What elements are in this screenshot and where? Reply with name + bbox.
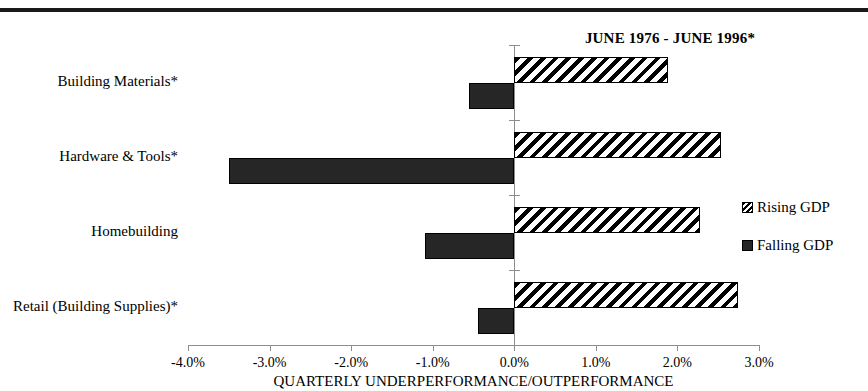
bar-falling-gdp [478,308,515,334]
x-axis-tick-label: 3.0% [724,355,794,371]
bar-group [188,270,759,345]
legend-item: Rising GDP [742,188,866,226]
bar-rising-gdp [514,132,720,158]
bar-rising-gdp [514,207,700,233]
bar-chart: JUNE 1976 - JUNE 1996* Building Material… [0,0,868,391]
x-axis-tick-label: -2.0% [316,355,386,371]
x-axis-tick-label: 2.0% [642,355,712,371]
x-axis-tick [759,345,760,351]
x-axis-tick [677,345,678,351]
legend-label: Rising GDP [757,199,830,216]
x-axis-title: QUARTERLY UNDERPERFORMANCE/OUTPERFORMANC… [188,373,759,390]
category-axis-labels: Building Materials*Hardware & Tools*Home… [0,45,178,345]
plot-area [188,45,759,345]
bar-falling-gdp [229,158,515,184]
category-label: Retail (Building Supplies)* [13,298,178,315]
x-axis-tick [270,345,271,351]
x-axis-tick-label: -3.0% [235,355,305,371]
bar-rising-gdp [514,282,738,308]
category-label: Hardware & Tools* [59,148,178,165]
x-axis-tick-label: 1.0% [561,355,631,371]
legend-label: Falling GDP [757,237,833,254]
legend-item: Falling GDP [742,226,866,264]
x-axis-tick [351,345,352,351]
x-axis-tick [596,345,597,351]
x-axis-tick [433,345,434,351]
x-axis-tick-label: -4.0% [153,355,223,371]
bar-rising-gdp [514,57,668,83]
category-label: Building Materials* [58,73,178,90]
bar-falling-gdp [425,233,514,259]
x-axis-tick-label: -1.0% [398,355,468,371]
x-axis-tick-label: 0.0% [479,355,549,371]
x-axis-line [188,345,759,346]
bar-group [188,195,759,270]
x-axis-tick [514,345,515,351]
x-axis-tick [188,345,189,351]
legend-swatch-icon [742,240,753,251]
legend: Rising GDPFalling GDP [742,188,866,264]
bar-group [188,120,759,195]
bar-group [188,45,759,120]
legend-swatch-icon [742,202,753,213]
category-label: Homebuilding [91,223,178,240]
bar-falling-gdp [469,83,515,109]
